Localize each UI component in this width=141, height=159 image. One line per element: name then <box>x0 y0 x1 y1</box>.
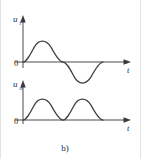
waveform-svg: u i 0 t u o 0 t b) <box>1 0 141 159</box>
output-y-axis-label: u <box>13 79 18 89</box>
output-x-axis-arrowhead <box>124 117 132 122</box>
waveform-figure: u i 0 t u o 0 t b) <box>0 0 141 159</box>
output-x-axis-label: t <box>127 123 130 133</box>
output-rectified-curve <box>23 99 103 120</box>
input-x-axis-arrowhead <box>124 59 132 64</box>
output-y-axis-subscript: o <box>20 85 23 91</box>
output-origin-label: 0 <box>14 116 18 126</box>
output-waveform-panel: u o 0 t <box>13 79 131 133</box>
input-waveform-panel: u i 0 t <box>13 14 131 83</box>
input-y-axis-label: u <box>13 14 18 24</box>
input-x-axis-label: t <box>127 65 130 75</box>
input-origin-label: 0 <box>14 58 18 68</box>
figure-caption: b) <box>61 143 69 153</box>
